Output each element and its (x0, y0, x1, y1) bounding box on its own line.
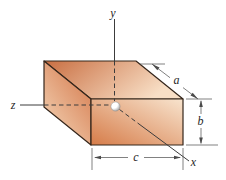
dimension-b-arrow-down-icon (199, 138, 203, 145)
box-front-face (91, 99, 183, 145)
y-axis-label: y (109, 6, 116, 20)
z-axis-label: z (10, 98, 16, 112)
dimension-a-label: a (174, 73, 180, 87)
dimension-a-arrow-up-icon (152, 64, 160, 70)
diagram-canvas: y z x a a b c (0, 0, 226, 180)
dimension-c-arrow-right-icon (174, 156, 181, 160)
dimension-c-label: c (133, 150, 139, 164)
box-diagram-figure: y z x a a b c (0, 0, 226, 180)
x-axis-label: x (190, 155, 197, 169)
center-of-mass-sphere (111, 102, 120, 111)
dimension-b-label: b (198, 114, 204, 128)
dimension-c-arrow-left-icon (94, 156, 101, 160)
dimension-b-arrow-up-icon (199, 100, 203, 107)
